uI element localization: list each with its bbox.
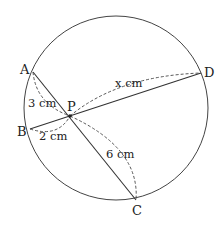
label-ap-length: 3 cm [28, 96, 56, 110]
label-point-p: P [67, 99, 76, 114]
diagram-canvas: A B C D P 3 cm 2 cm 6 cm x cm [0, 0, 224, 231]
label-point-c: C [132, 203, 142, 218]
label-pc-length: 6 cm [106, 147, 134, 161]
label-point-a: A [19, 62, 30, 77]
label-point-b: B [17, 124, 27, 139]
point-p-marker [68, 114, 72, 118]
label-bp-length: 2 cm [39, 129, 67, 143]
label-pd-length: x cm [115, 76, 143, 90]
label-point-d: D [204, 65, 214, 80]
